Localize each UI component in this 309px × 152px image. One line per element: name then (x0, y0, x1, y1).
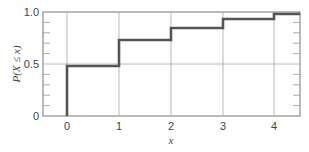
x-tick-1: 1 (116, 120, 122, 132)
cdf-step-line (67, 14, 300, 116)
x-tick-3: 3 (220, 120, 226, 132)
x-tick-0: 0 (64, 120, 70, 132)
x-tick-2: 2 (168, 120, 174, 132)
cdf-chart: 1.0 0.5 0 0 1 2 3 4 x P(X ≤ x) (0, 0, 309, 152)
x-axis-label: x (168, 134, 174, 146)
y-tick-0: 0 (33, 110, 39, 122)
y-tick-1.0: 1.0 (24, 6, 39, 18)
y-tick-0.5: 0.5 (24, 58, 39, 70)
y-axis-label: P(X ≤ x) (10, 45, 23, 84)
x-tick-4: 4 (271, 120, 277, 132)
